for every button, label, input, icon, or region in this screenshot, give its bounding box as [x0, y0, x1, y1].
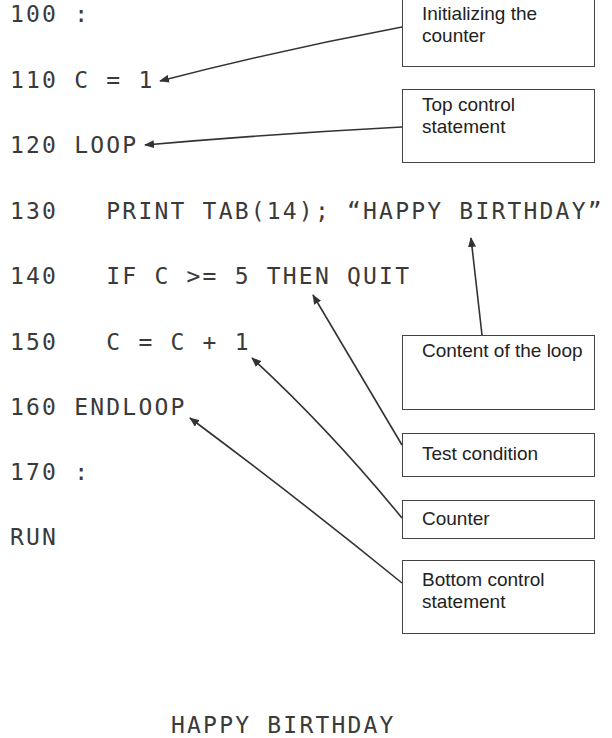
callout-label: Test condition	[422, 443, 538, 464]
arrow-initializing	[160, 27, 402, 81]
callout-label: Content of the loop	[422, 340, 583, 361]
program-output: HAPPY BIRTHDAY	[171, 712, 396, 738]
callout-label: Bottom control statement	[422, 569, 545, 612]
callout-test-condition: Test condition	[402, 433, 595, 477]
callout-bottom-control: Bottom control statement	[402, 560, 595, 634]
callout-counter: Counter	[402, 500, 595, 539]
arrow-counter	[252, 358, 402, 518]
arrow-content	[471, 238, 482, 335]
callout-top-control: Top control statement	[402, 89, 595, 163]
callout-content-of-loop: Content of the loop	[402, 335, 595, 410]
callout-label: Initializing the counter	[422, 3, 537, 46]
arrow-bottom-control	[190, 418, 402, 583]
callout-label: Top control statement	[422, 94, 515, 137]
callout-initializing-counter: Initializing the counter	[402, 0, 595, 67]
callout-label: Counter	[422, 508, 490, 529]
arrow-top-control	[145, 127, 402, 145]
arrow-test-condition	[313, 295, 402, 445]
